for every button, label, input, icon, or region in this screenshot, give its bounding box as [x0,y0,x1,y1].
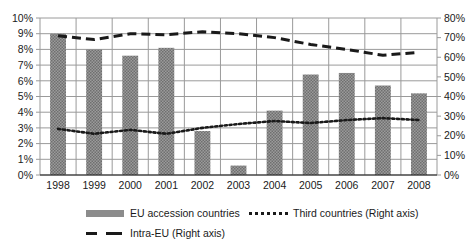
xtick-label-1999: 1999 [82,179,106,190]
ytick-label-left: 3% [18,122,33,134]
bar-2000 [122,56,138,175]
xtick-label-2006: 2006 [335,179,359,190]
ytick-label-right: 50% [444,71,465,83]
bar-1998 [50,34,66,175]
bar-2001 [158,48,174,175]
ytick-label-right: 0% [444,169,459,181]
ytick-label-right: 30% [444,110,465,122]
bar-2002 [194,131,210,175]
ytick-label-left: 10% [12,12,33,24]
legend-label-third-countries: Third countries (Right axis) [293,207,418,219]
xtick-label-2004: 2004 [263,179,287,190]
ytick-label-left: 2% [18,137,33,149]
legend-label-eu-accession: EU accession countries [130,207,240,219]
chart-legend: EU accession countries Third countries (… [0,194,472,250]
xtick-label-2000: 2000 [119,179,143,190]
ytick-label-left: 8% [18,43,33,55]
bar-swatch-icon [86,210,124,217]
ytick-label-right: 80% [444,12,465,24]
plot-area: 0%1%2%3%4%5%6%7%8%9%10%0%10%20%30%40%50%… [0,0,472,190]
xtick-label-2002: 2002 [191,179,215,190]
ytick-label-left: 4% [18,106,33,118]
chart-container: 0%1%2%3%4%5%6%7%8%9%10%0%10%20%30%40%50%… [0,0,472,252]
ytick-label-right: 20% [444,129,465,141]
bar-2008 [411,93,427,175]
bar-2007 [375,86,391,175]
ytick-label-left: 6% [18,75,33,87]
xtick-label-2001: 2001 [155,179,179,190]
dotted-line-swatch-icon [249,212,287,215]
ytick-label-left: 0% [18,169,33,181]
chart-svg: 0%1%2%3%4%5%6%7%8%9%10%0%10%20%30%40%50%… [0,0,472,190]
xtick-label-2003: 2003 [227,179,251,190]
ytick-label-left: 9% [18,27,33,39]
ytick-label-right: 70% [444,31,465,43]
ytick-label-right: 60% [444,51,465,63]
bar-1999 [86,49,102,175]
xtick-label-2008: 2008 [407,179,431,190]
ytick-label-right: 40% [444,90,465,102]
ytick-label-left: 7% [18,59,33,71]
bar-2003 [231,166,247,175]
xtick-label-2005: 2005 [299,179,323,190]
ytick-label-left: 5% [18,90,33,102]
xtick-label-2007: 2007 [371,179,395,190]
bar-2006 [339,73,355,175]
ytick-label-right: 10% [444,149,465,161]
dashed-line-swatch-icon [86,232,124,235]
bar-2005 [303,75,319,175]
legend-label-intra-eu: Intra-EU (Right axis) [130,227,225,239]
xtick-label-1998: 1998 [46,179,70,190]
ytick-label-left: 1% [18,153,33,165]
